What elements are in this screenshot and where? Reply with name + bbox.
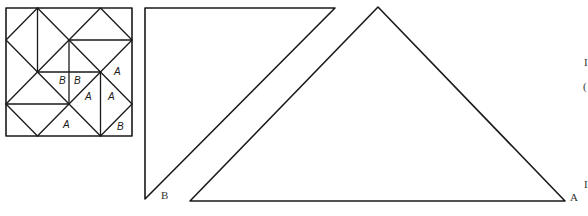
quilt-block: B B A A A A B bbox=[6, 8, 132, 136]
piece-label: A bbox=[113, 66, 121, 77]
piece-label: B bbox=[117, 121, 124, 132]
edge-fragment: I bbox=[584, 178, 588, 190]
piece-label: B bbox=[74, 75, 81, 86]
edge-text-fragments: I ( I bbox=[583, 56, 588, 190]
piece-label: B bbox=[59, 75, 66, 86]
edge-fragment: I bbox=[584, 56, 588, 68]
template-a: A bbox=[190, 7, 578, 203]
edge-fragment: ( bbox=[583, 80, 587, 93]
piece-label: A bbox=[84, 91, 92, 102]
piece-label: A bbox=[107, 91, 115, 102]
template-b: B bbox=[145, 8, 335, 201]
diagram-canvas: B B A A A A B B A I ( I bbox=[0, 0, 588, 216]
template-b-triangle bbox=[145, 8, 335, 199]
template-a-triangle bbox=[190, 7, 565, 201]
template-a-label: A bbox=[570, 191, 578, 203]
template-b-label: B bbox=[161, 189, 168, 201]
piece-label: A bbox=[62, 119, 70, 130]
